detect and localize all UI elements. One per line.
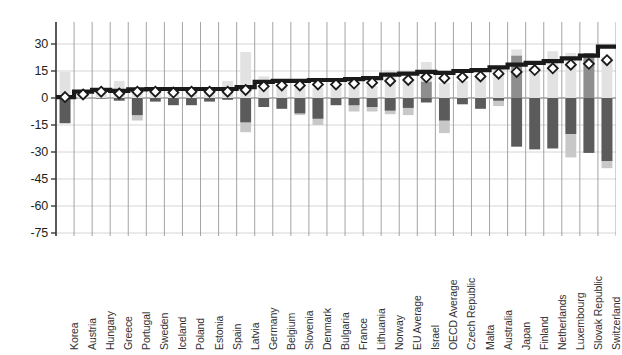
bar-negative (258, 98, 269, 107)
bar-negative (168, 98, 179, 105)
x-axis-category-label: Malta (485, 325, 496, 350)
bar-negative (150, 98, 161, 102)
bar-negative (331, 98, 342, 105)
x-axis-category-label: Belgium (286, 313, 297, 350)
y-axis-tick-label: 30 (4, 38, 48, 51)
bar-negative (457, 98, 468, 104)
bar-positive (547, 51, 558, 98)
x-axis-category-label: France (358, 318, 369, 350)
x-axis-category-label: Spain (232, 324, 243, 350)
y-axis-tick-label: 15 (4, 65, 48, 78)
bar-negative (132, 98, 143, 115)
bar-negative (547, 98, 558, 148)
x-axis-category-label: Iceland (177, 317, 188, 350)
bar-negative (403, 98, 414, 108)
bar-negative (602, 98, 613, 161)
x-axis-category-label: Korea (69, 322, 80, 350)
x-axis-category-label: Switzerland (611, 297, 622, 350)
x-axis-category-label: Denmark (322, 308, 333, 350)
y-axis-tick-label: 0 (4, 92, 48, 105)
x-axis-category-label: Austria (87, 318, 98, 350)
bar-negative (583, 98, 594, 153)
bar-negative (511, 98, 522, 147)
x-axis-category-label: OECD Average (448, 280, 459, 350)
bar-negative (385, 98, 396, 111)
bar-positive-highlight (421, 82, 432, 98)
x-axis-category-label: Australia (503, 310, 514, 350)
bar-negative (367, 98, 378, 107)
bar-negative (565, 98, 576, 134)
bar-negative (222, 98, 233, 100)
y-axis-tick-label: -15 (4, 119, 48, 132)
x-axis-category-label: Japan (521, 322, 532, 350)
x-axis-category-label: Finland (539, 316, 550, 350)
diamond-marker (457, 72, 467, 82)
x-axis-category-label: Estonia (214, 316, 225, 350)
bar-negative (294, 98, 305, 113)
y-axis-tick-label: -60 (4, 200, 48, 213)
bar-negative (276, 98, 287, 109)
x-axis-category-label: Poland (195, 318, 206, 350)
x-axis-category-label: Netherlands (557, 294, 568, 350)
bar-negative (349, 98, 360, 105)
bar-negative (475, 98, 486, 109)
bar-negative (240, 98, 251, 122)
x-axis-category-label: Slovak Republic (593, 276, 604, 350)
bar-negative (204, 98, 215, 102)
y-axis-tick-label: -45 (4, 173, 48, 186)
y-axis-tick-label: -30 (4, 146, 48, 159)
x-axis-category-label: Germany (268, 308, 279, 350)
bar-negative (529, 98, 540, 149)
x-axis-category-label: Portugal (141, 312, 152, 350)
x-axis-category-label: Slovenia (304, 311, 315, 350)
bar-negative (186, 98, 197, 105)
x-axis-category-label: Israel (430, 325, 441, 350)
x-axis-category-label: Norway (394, 315, 405, 350)
bar-negative (313, 98, 324, 119)
x-axis-category-label: Bulgaria (340, 312, 351, 350)
bar-negative (439, 98, 450, 121)
x-axis-category-label: Greece (123, 316, 134, 350)
bar-negative (96, 98, 107, 99)
x-axis-category-label: Sweden (159, 313, 170, 350)
x-axis-category-label: Hungary (105, 311, 116, 350)
y-axis-tick-label: -75 (4, 227, 48, 240)
x-axis-category-label: Luxembourg (575, 293, 586, 350)
bar-negative (421, 98, 432, 103)
bar-negative (493, 98, 504, 101)
bar-positive (439, 83, 450, 98)
x-axis-category-label: EU Average (412, 295, 423, 350)
x-axis-category-label: Czech Republic (466, 278, 477, 350)
x-axis-category-label: Lithuania (376, 308, 387, 350)
x-axis-category-label: Latvia (250, 323, 261, 350)
